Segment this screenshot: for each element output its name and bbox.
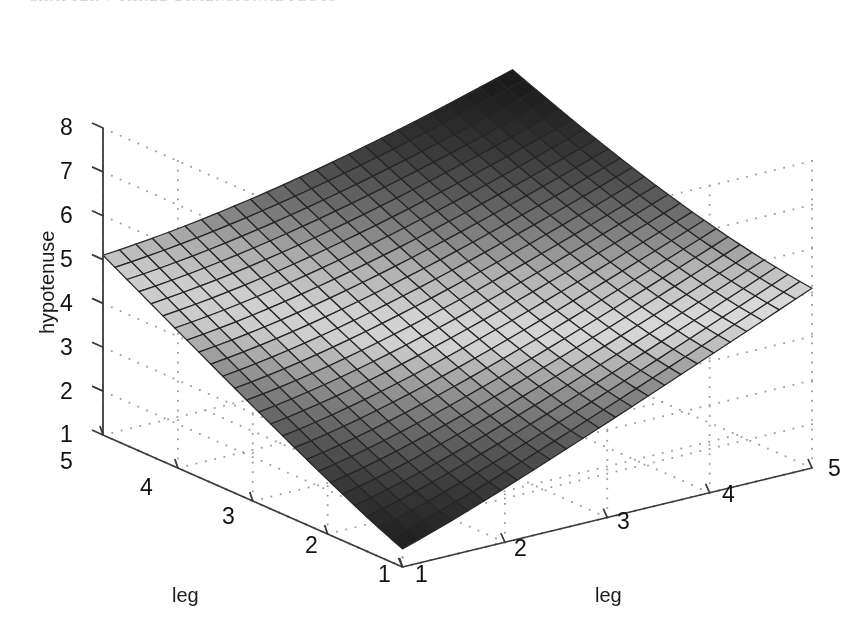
left-xtick-5: 5	[60, 448, 73, 475]
ztick-1: 1	[60, 421, 73, 448]
page-running-header: CHAPTER 7 THREE-DIMENSIONAL PLOTS	[0, 0, 867, 7]
ztick-8: 8	[60, 114, 73, 141]
right-xtick-1: 1	[415, 561, 428, 588]
right-xtick-4: 4	[722, 481, 735, 508]
right-xtick-3: 3	[617, 508, 630, 535]
right-xtick-2: 2	[514, 535, 527, 562]
ztick-6: 6	[60, 202, 73, 229]
axis-label-leg-left: leg	[172, 584, 199, 607]
left-xtick-3: 3	[222, 503, 235, 530]
left-xtick-4: 4	[140, 474, 153, 501]
ztick-3: 3	[60, 334, 73, 361]
left-xtick-2: 2	[305, 532, 318, 559]
ztick-5: 5	[60, 246, 73, 273]
ztick-2: 2	[60, 378, 73, 405]
axis-label-hypotenuse: hypotenuse	[36, 231, 59, 334]
figure-surface-plot: CHAPTER 7 THREE-DIMENSIONAL PLOTS hypote…	[0, 0, 867, 644]
ztick-7: 7	[60, 158, 73, 185]
axis-label-leg-right: leg	[595, 584, 622, 607]
page-header-text: CHAPTER 7 THREE-DIMENSIONAL PLOTS	[28, 0, 338, 5]
left-xtick-1: 1	[378, 561, 391, 588]
ztick-4: 4	[60, 290, 73, 317]
right-xtick-5: 5	[828, 455, 841, 482]
surface-plot-canvas	[0, 0, 867, 644]
